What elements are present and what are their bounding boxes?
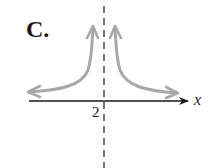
left-branch-curve [28, 26, 98, 97]
x-axis-label: x [194, 91, 201, 109]
right-branch-curve [110, 26, 178, 98]
x-tick-label: 2 [92, 104, 100, 121]
graph-canvas [0, 0, 218, 168]
